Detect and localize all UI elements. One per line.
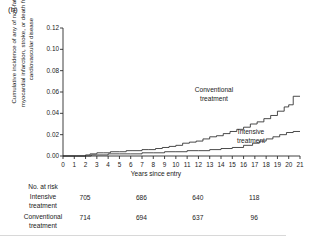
conventional-curve-label: Conventional treatment xyxy=(175,86,253,103)
figure-panel: (b) Cumulative incidence of any of non-f… xyxy=(0,0,312,239)
at-risk-value: 686 xyxy=(126,194,156,201)
at-risk-value: 96 xyxy=(239,214,269,221)
curve-conventional xyxy=(63,96,300,156)
x-axis-title: Years since entry xyxy=(0,170,312,177)
at-risk-row-label-line2: treatment xyxy=(29,202,57,209)
intensive-label-line1: Intensive xyxy=(238,128,264,135)
y-tick-label: 0.00 xyxy=(37,152,59,159)
conventional-label-line2: treatment xyxy=(200,95,228,102)
at-risk-value: 694 xyxy=(126,214,156,221)
intensive-label-line2: treatment xyxy=(237,137,265,144)
y-tick-label: 0.02 xyxy=(37,131,59,138)
at-risk-value: 714 xyxy=(70,214,100,221)
y-tick-label: 0.08 xyxy=(37,67,59,74)
table-divider xyxy=(0,235,286,236)
at-risk-value: 705 xyxy=(70,194,100,201)
at-risk-value: 118 xyxy=(239,194,269,201)
at-risk-header: No. at risk xyxy=(0,183,86,190)
x-tick-label: 21 xyxy=(293,161,307,168)
conventional-label-line1: Conventional xyxy=(195,86,234,93)
y-tick-label: 0.10 xyxy=(37,45,59,52)
intensive-curve-label: Intensive treatment xyxy=(216,128,286,145)
y-tick-label: 0.06 xyxy=(37,88,59,95)
at-risk-row-label-line1: Intensive xyxy=(30,193,56,200)
at-risk-value: 640 xyxy=(183,194,213,201)
at-risk-row-label-line2: treatment xyxy=(29,222,57,229)
y-tick-label: 0.04 xyxy=(37,109,59,116)
curve-layer xyxy=(63,96,300,156)
at-risk-value: 637 xyxy=(183,214,213,221)
y-tick-label: 0.12 xyxy=(37,24,59,31)
at-risk-table: No. at risk Intensivetreatment7056866401… xyxy=(0,183,312,239)
at-risk-row-label-line1: Conventional xyxy=(24,213,63,220)
